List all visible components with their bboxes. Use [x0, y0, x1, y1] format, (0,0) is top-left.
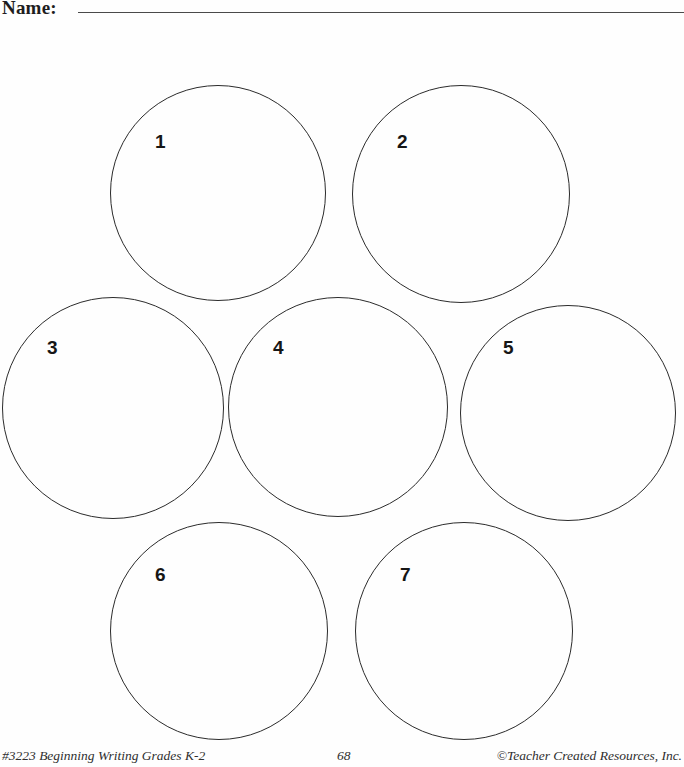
circle-number-label: 6 — [155, 565, 166, 584]
circle-number-label: 5 — [503, 338, 514, 357]
circle-5[interactable]: 5 — [460, 305, 676, 521]
circle-2[interactable]: 2 — [352, 85, 570, 303]
footer-book-title: #3223 Beginning Writing Grades K-2 — [2, 748, 205, 764]
footer-page-number: 68 — [337, 748, 351, 764]
circle-3[interactable]: 3 — [2, 297, 224, 519]
circle-number-label: 4 — [273, 338, 284, 357]
circle-1[interactable]: 1 — [110, 85, 326, 301]
circle-7[interactable]: 7 — [355, 522, 573, 740]
circle-number-label: 2 — [397, 132, 408, 151]
circle-4[interactable]: 4 — [228, 297, 448, 517]
circle-number-label: 1 — [155, 132, 166, 151]
name-label: Name: — [2, 0, 57, 19]
page-footer: #3223 Beginning Writing Grades K-2 68 ©T… — [0, 748, 684, 767]
footer-copyright: ©Teacher Created Resources, Inc. — [497, 748, 682, 764]
circle-number-label: 3 — [47, 338, 58, 357]
name-field-row: Name: — [0, 0, 684, 24]
circle-number-label: 7 — [400, 565, 411, 584]
circle-6[interactable]: 6 — [110, 522, 328, 740]
name-write-line[interactable] — [78, 12, 684, 13]
worksheet-page: Name: 1234567 #3223 Beginning Writing Gr… — [0, 0, 684, 767]
